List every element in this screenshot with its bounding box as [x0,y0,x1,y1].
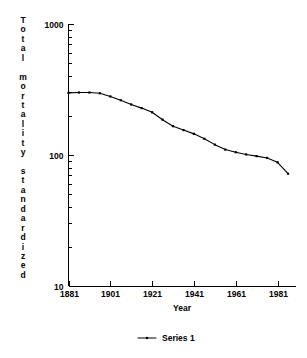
series-marker [287,173,289,175]
series-marker [120,99,122,101]
x-axis-major-ticks [70,281,279,286]
series-marker [203,138,205,140]
series-marker [256,155,258,157]
series-marker [67,92,69,94]
chart-plot-area: 101001000 188119011921194119611981 Year … [0,0,307,358]
series-line [69,93,289,174]
series-marker [141,107,143,109]
series-marker [99,92,101,94]
series-marker [172,125,174,127]
series-marker [78,91,80,93]
series-marker [276,161,278,163]
series-marker [130,103,132,105]
series-marker [151,111,153,113]
legend-marker-swatch [146,337,148,339]
series-marker [266,157,268,159]
series-marker [214,144,216,146]
y-axis-tick-labels: 101001000 [45,20,64,292]
series-marker [182,129,184,131]
legend-label: Series 1 [162,333,195,343]
x-tick-label: 1881 [60,289,79,299]
data-series-series-1 [67,91,289,174]
y-axis-minor-ticks [69,31,73,248]
y-tick-label: 1000 [45,20,64,30]
series-marker [88,91,90,93]
x-axis-title: Year [173,303,192,313]
x-tick-label: 1921 [143,289,162,299]
chart-figure: Total mortality standardized 101001000 1… [0,0,307,358]
series-marker [224,148,226,150]
x-tick-label: 1961 [227,289,246,299]
x-axis-tick-labels: 188119011921194119611981 [60,289,288,299]
chart-legend: Series 1 [138,333,195,343]
y-tick-label: 100 [49,151,63,161]
series-marker [161,119,163,121]
series-marker [109,95,111,97]
x-tick-label: 1901 [101,289,120,299]
x-tick-label: 1981 [269,289,288,299]
series-marker [235,151,237,153]
series-marker [245,153,247,155]
x-tick-label: 1941 [185,289,204,299]
series-marker [193,133,195,135]
